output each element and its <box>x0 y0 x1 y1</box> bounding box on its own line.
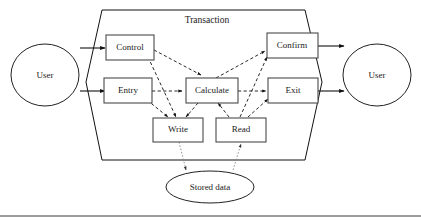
process-confirm-label: Confirm <box>277 40 308 50</box>
datastore-stored-data-label: Stored data <box>190 182 231 192</box>
actor-user-left-label: User <box>37 70 54 80</box>
edge-read-to-calculate <box>218 103 229 117</box>
process-entry-label: Entry <box>118 85 138 95</box>
edge-write-to-stored-data <box>179 142 186 170</box>
edge-calculate-to-confirm <box>216 51 265 78</box>
edge-read-to-confirm <box>240 57 267 117</box>
process-write-label: Write <box>168 124 188 134</box>
diagram-title: Transaction <box>185 15 230 25</box>
edge-stored-data-to-read <box>233 144 241 170</box>
diagram-canvas: Transaction User User <box>0 0 421 221</box>
edge-calculate-to-write <box>186 103 198 117</box>
process-calculate-label: Calculate <box>195 85 229 95</box>
process-exit-label: Exit <box>286 85 301 95</box>
edge-read-to-exit <box>248 99 268 117</box>
process-control-label: Control <box>116 42 144 52</box>
edge-control-to-calculate <box>154 50 201 75</box>
process-read-label: Read <box>232 124 251 134</box>
actor-user-right-label: User <box>369 70 386 80</box>
transaction-diagram: Transaction User User <box>0 0 421 221</box>
